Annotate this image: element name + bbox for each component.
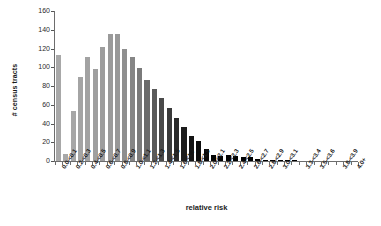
y-axis-tickmark bbox=[51, 67, 54, 68]
x-axis-tickmark bbox=[299, 162, 300, 165]
y-axis-tickmark bbox=[51, 105, 54, 106]
bar bbox=[152, 89, 157, 161]
y-axis-tickmark bbox=[51, 124, 54, 125]
bar bbox=[93, 69, 98, 161]
y-axis-tickmark bbox=[51, 86, 54, 87]
x-axis-labels: 0.0-<0.10.2-<0.30.4-<0.50.6-<0.70.8-<0.9… bbox=[55, 166, 365, 200]
y-axis-tickmark bbox=[51, 11, 54, 12]
bar bbox=[122, 49, 127, 162]
bar bbox=[78, 77, 83, 161]
y-axis-tick-label: 40 bbox=[28, 119, 50, 129]
y-axis-tick-label: 0 bbox=[28, 156, 50, 166]
y-axis-tick-label: 140 bbox=[28, 25, 50, 35]
x-axis-tickmark bbox=[55, 162, 56, 165]
x-axis-tickmark bbox=[85, 162, 86, 165]
y-axis-tick-label: 160 bbox=[28, 6, 50, 16]
bar bbox=[56, 55, 61, 161]
y-axis-tick-label: 120 bbox=[28, 44, 50, 54]
y-axis-tickmark bbox=[51, 142, 54, 143]
bar bbox=[85, 57, 90, 161]
y-axis-tickmark bbox=[51, 30, 54, 31]
bar bbox=[100, 47, 105, 161]
x-axis-tickmark bbox=[336, 162, 337, 165]
y-axis-tick-label: 100 bbox=[28, 62, 50, 72]
y-axis-tick-label: 60 bbox=[28, 100, 50, 110]
bar bbox=[130, 57, 135, 161]
y-axis-tickmark bbox=[51, 49, 54, 50]
bar bbox=[137, 68, 142, 161]
histogram-chart: # census tracts 020406080100120140160 0.… bbox=[0, 0, 381, 226]
bar bbox=[108, 34, 113, 162]
y-axis-tick-label: 20 bbox=[28, 137, 50, 147]
x-axis-title: relative risk bbox=[55, 203, 358, 212]
y-axis: 020406080100120140160 bbox=[28, 11, 50, 161]
y-axis-tick-label: 80 bbox=[28, 81, 50, 91]
y-axis-tickmark bbox=[51, 161, 54, 162]
plot-area bbox=[55, 11, 358, 161]
bar bbox=[115, 34, 120, 162]
y-axis-title: # census tracts bbox=[8, 10, 22, 170]
